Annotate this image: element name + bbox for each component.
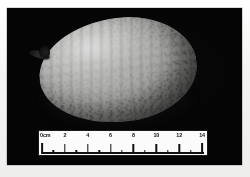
- scale-label-12: 12: [176, 132, 182, 138]
- scale-bar-rule: [39, 142, 207, 156]
- scale-label-10: 10: [153, 132, 159, 138]
- scale-tick-0: [41, 143, 43, 154]
- scale-tick-9: [144, 150, 145, 154]
- scale-label-4: 4: [86, 132, 89, 138]
- centimeter-scale-bar: 0cm2468101214: [38, 130, 208, 156]
- scale-tick-10: [156, 144, 157, 154]
- scale-tick-12: [178, 144, 179, 154]
- photograph-plate: 0cm2468101214: [7, 8, 242, 165]
- scale-tick-14: [201, 143, 203, 154]
- scale-tick-7: [121, 150, 122, 154]
- scale-bar-labels: 0cm2468101214: [39, 131, 207, 142]
- scale-tick-4: [87, 144, 88, 154]
- scale-label-6: 6: [109, 132, 112, 138]
- scale-tick-2: [64, 144, 65, 154]
- scale-tick-8: [133, 144, 134, 154]
- scale-tick-11: [167, 150, 168, 154]
- scale-label-2: 2: [63, 132, 66, 138]
- scale-label-14: 14: [199, 132, 205, 138]
- scale-tick-6: [110, 144, 111, 154]
- scale-tick-3: [76, 150, 77, 154]
- scale-tick-1: [53, 150, 54, 154]
- scale-tick-5: [98, 150, 99, 154]
- scale-tick-13: [190, 150, 191, 154]
- figure-root: 0cm2468101214 Photograph of a single ovo…: [0, 0, 250, 177]
- scale-label-0: 0cm: [40, 132, 51, 138]
- scale-label-8: 8: [132, 132, 135, 138]
